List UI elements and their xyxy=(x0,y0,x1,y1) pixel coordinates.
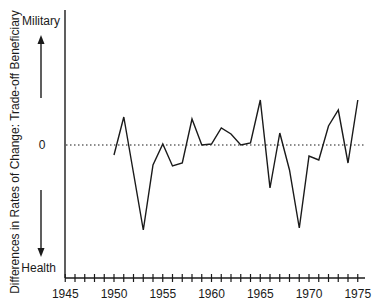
down-arrow-icon xyxy=(38,190,45,257)
x-tick-label: 1945 xyxy=(52,287,79,301)
x-axis-tick-labels: 1945195019551960196519701975 xyxy=(52,287,372,301)
health-label: Health xyxy=(21,261,56,275)
y-axis-label: Differences in Rates of Change: Trade-of… xyxy=(8,10,22,294)
military-label: Military xyxy=(22,14,60,28)
x-tick-label: 1950 xyxy=(101,287,128,301)
x-tick-label: 1970 xyxy=(296,287,323,301)
up-arrow-icon xyxy=(38,35,45,98)
line-chart: Differences in Rates of Change: Trade-of… xyxy=(0,0,375,306)
x-tick-label: 1960 xyxy=(198,287,225,301)
x-tick-label: 1965 xyxy=(247,287,274,301)
data-series-line xyxy=(114,100,358,230)
x-tick-label: 1975 xyxy=(344,287,371,301)
zero-label: 0 xyxy=(39,138,46,152)
x-tick-label: 1955 xyxy=(149,287,176,301)
